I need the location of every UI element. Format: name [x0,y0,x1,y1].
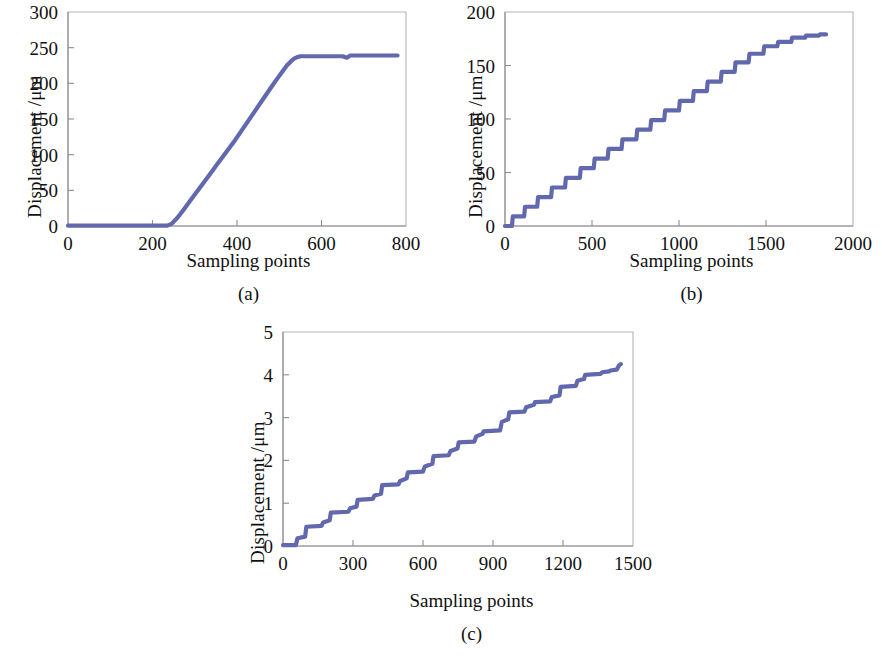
x-tick-label: 0 [500,233,510,250]
x-tick-label: 1200 [544,553,582,574]
panel-caption-c: (c) [251,623,692,645]
x-axis-label-c: Sampling points [251,590,692,612]
x-axis-label-b: Sampling points [471,250,882,272]
chart-svg-b: 0501001502000500100015002000 [441,0,882,250]
x-tick-label: 200 [138,233,167,250]
x-tick-label: 1500 [747,233,785,250]
y-axis-label-a: Displacement /μm [24,75,46,218]
panel-caption-a: (a) [28,283,469,305]
x-tick-label: 2000 [834,233,872,250]
x-tick-label: 500 [578,233,607,250]
x-tick-label: 1000 [660,233,698,250]
x-tick-label: 800 [392,233,421,250]
figure-three-panel-displacement: 0501001502002503000200400600800 Displace… [0,0,882,659]
data-series-line [283,364,621,545]
x-tick-label: 600 [307,233,336,250]
y-tick-label: 5 [264,322,274,343]
y-tick-label: 4 [264,365,274,386]
chart-svg-c: 012345030060090012001500 [221,318,662,590]
y-tick-label: 250 [30,38,59,59]
plot-area-b: 0501001502000500100015002000 [441,0,882,250]
chart-svg-a: 0501001502002503000200400600800 [0,0,441,250]
y-axis-label-c: Displacement /μm [247,421,269,564]
y-tick-label: 0 [49,216,59,237]
x-tick-label: 400 [223,233,252,250]
y-tick-label: 150 [467,56,496,77]
panel-caption-b: (b) [471,283,882,305]
x-tick-label: 900 [479,553,508,574]
x-tick-label: 300 [339,553,368,574]
y-tick-label: 300 [30,2,59,23]
data-series-line [68,56,398,226]
chart-panel-c: 012345030060090012001500 Displacement /μ… [221,318,662,659]
x-tick-label: 600 [409,553,438,574]
y-axis-label-b: Displacement /μm [465,75,487,218]
plot-area-c: 012345030060090012001500 [221,318,662,568]
y-tick-label: 200 [467,2,496,23]
y-tick-label: 0 [486,216,496,237]
x-axis-label-a: Sampling points [28,250,469,272]
x-tick-label: 0 [278,553,288,574]
data-series-line [505,34,826,226]
chart-panel-a: 0501001502002503000200400600800 Displace… [0,0,441,320]
x-tick-label: 0 [63,233,73,250]
chart-panel-b: 0501001502000500100015002000 Displacemen… [441,0,882,320]
plot-area-a: 0501001502002503000200400600800 [0,0,441,250]
x-tick-label: 1500 [614,553,652,574]
